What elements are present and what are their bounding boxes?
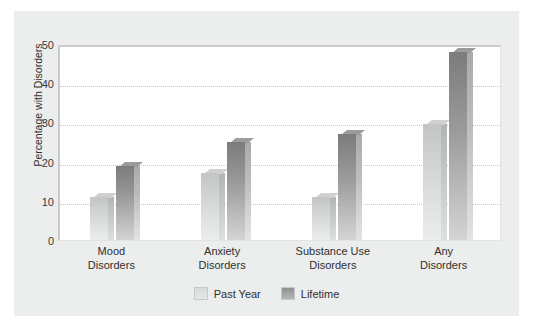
x-tick-label-line: Mood	[88, 245, 135, 259]
x-tick-label-line: Any	[420, 245, 467, 259]
bar-side-face	[134, 166, 140, 240]
x-tick-label: Substance UseDisorders	[296, 245, 371, 272]
plot-area	[60, 47, 500, 240]
bar-front-face	[423, 124, 441, 240]
x-tick-label: AnyDisorders	[420, 245, 467, 272]
bar-side-face	[356, 134, 362, 240]
bar-front-face	[227, 142, 245, 240]
y-tick-label: 10	[28, 196, 54, 207]
x-tick-label-line: Anxiety	[199, 245, 246, 259]
bar-group	[90, 47, 140, 240]
x-tick-label-line: Disorders	[199, 259, 246, 273]
chart-legend: Past YearLifetime	[14, 287, 519, 300]
bar-lifetime	[338, 134, 356, 240]
chart-figure: 01020304050 Percentage with Disorders Mo…	[14, 11, 519, 316]
legend-item-lifetime[interactable]: Lifetime	[281, 287, 340, 300]
x-tick-label-line: Substance Use	[296, 245, 371, 259]
legend-swatch	[281, 287, 295, 300]
bar-front-face	[90, 197, 108, 240]
bar-past-year	[423, 124, 441, 240]
x-tick-label: AnxietyDisorders	[199, 245, 246, 272]
bar-lifetime	[449, 52, 467, 240]
x-tick-label-line: Disorders	[420, 259, 467, 273]
x-tick-label: MoodDisorders	[88, 245, 135, 272]
legend-label: Past Year	[214, 288, 261, 300]
bar-side-face	[108, 197, 114, 240]
y-axis-label: Percentage with Disorders	[32, 30, 44, 180]
bar-past-year	[312, 197, 330, 240]
y-tick-label: 0	[28, 236, 54, 247]
bar-front-face	[201, 173, 219, 240]
x-axis-labels: MoodDisordersAnxietyDisordersSubstance U…	[58, 245, 501, 279]
legend-item-past-year[interactable]: Past Year	[194, 287, 261, 300]
bar-side-face	[245, 142, 251, 240]
bar-group	[312, 47, 362, 240]
bar-group	[423, 47, 473, 240]
bar-side-face	[219, 173, 225, 240]
plot-frame	[58, 45, 501, 241]
bar-front-face	[338, 134, 356, 240]
bar-lifetime	[227, 142, 245, 240]
bar-group	[201, 47, 251, 240]
x-tick-label-line: Disorders	[296, 259, 371, 273]
bar-front-face	[449, 52, 467, 240]
legend-swatch	[194, 287, 208, 300]
bar-side-face	[441, 124, 447, 240]
x-tick-label-line: Disorders	[88, 259, 135, 273]
bar-side-face	[467, 52, 473, 240]
bar-front-face	[116, 166, 134, 240]
bar-past-year	[201, 173, 219, 240]
bar-front-face	[312, 197, 330, 240]
bar-past-year	[90, 197, 108, 240]
legend-label: Lifetime	[301, 288, 340, 300]
bar-side-face	[330, 197, 336, 240]
bar-lifetime	[116, 166, 134, 240]
